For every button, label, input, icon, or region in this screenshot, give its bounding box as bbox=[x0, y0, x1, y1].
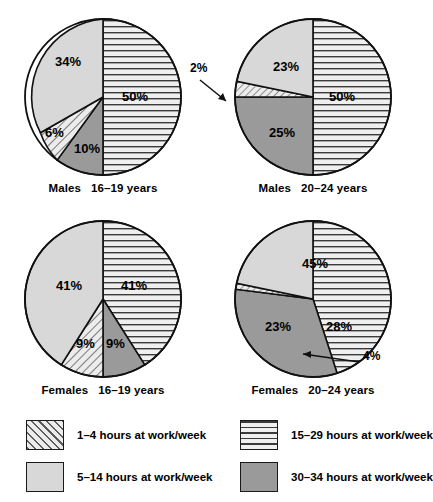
pie-panel-females-20-24: 45% 28% 23% Females20–24 years bbox=[228, 216, 398, 401]
caption-group: Females bbox=[41, 384, 88, 396]
legend-item-15-29-hours: 15–29 hours at work/week bbox=[240, 420, 433, 450]
legend-item-5-14-hours: 5–14 hours at work/week bbox=[26, 462, 213, 492]
legend-label: 5–14 hours at work/week bbox=[77, 471, 213, 483]
caption-group: Males bbox=[259, 182, 291, 194]
legend: 1–4 hours at work/week 5–14 hours at wor… bbox=[0, 412, 433, 502]
legend-swatch-horizontal-lines-icon bbox=[240, 420, 278, 450]
panel-caption-1: Males16–19 years bbox=[18, 182, 188, 194]
legend-item-1-4-hours: 1–4 hours at work/week bbox=[26, 420, 206, 450]
legend-swatch-dark-solid-icon bbox=[240, 462, 278, 492]
pie-svg-1 bbox=[18, 14, 188, 180]
callout-arrow-males-20-24 bbox=[186, 58, 246, 108]
pie-svg-2 bbox=[228, 14, 398, 180]
slice-label-15-29: 50% bbox=[329, 90, 355, 103]
caption-age: 20–24 years bbox=[308, 384, 374, 396]
caption-group: Males bbox=[49, 182, 81, 194]
slice-label-5-14: 23% bbox=[265, 320, 291, 333]
slice-label-30-34: 10% bbox=[74, 142, 100, 155]
pie-panel-males-20-24: 50% 25% 23% Males20–24 years bbox=[228, 14, 398, 199]
caption-age: 20–24 years bbox=[301, 182, 367, 194]
legend-label: 30–34 hours at work/week bbox=[291, 471, 433, 483]
pie-panel-males-16-19: 50% 10% 6% 34% Males16–19 years bbox=[18, 14, 188, 199]
pie-panel-females-16-19: 41% 9% 9% 41% Females16–19 years bbox=[18, 216, 188, 401]
slice-label-5-14: 41% bbox=[56, 279, 82, 292]
slice-label-30-34: 25% bbox=[269, 126, 295, 139]
panel-caption-3: Females16–19 years bbox=[18, 384, 188, 396]
slice-label-5-14: 34% bbox=[55, 55, 81, 68]
panel-caption-4: Females20–24 years bbox=[228, 384, 398, 396]
callout-arrow-females-20-24 bbox=[295, 340, 363, 370]
slice-label-30-34: 9% bbox=[106, 337, 125, 350]
panel-caption-2: Males20–24 years bbox=[228, 182, 398, 194]
slice-label-15-29: 41% bbox=[121, 279, 147, 292]
pie-chart-figure: 50% 10% 6% 34% Males16–19 years 50% 25% … bbox=[0, 0, 433, 502]
slice-label-15-29: 45% bbox=[302, 257, 328, 270]
caption-age: 16–19 years bbox=[91, 182, 157, 194]
slice-label-1-4: 6% bbox=[45, 126, 64, 139]
caption-group: Females bbox=[251, 384, 298, 396]
slice-label-5-14: 23% bbox=[273, 60, 299, 73]
legend-swatch-light-solid-icon bbox=[26, 462, 64, 492]
legend-item-30-34-hours: 30–34 hours at work/week bbox=[240, 462, 433, 492]
slice-label-15-29: 50% bbox=[122, 90, 148, 103]
pie-svg-3 bbox=[18, 216, 188, 382]
slice-label-30-34: 28% bbox=[326, 320, 352, 333]
legend-swatch-diagonal-hatch-icon bbox=[26, 420, 64, 450]
slice-label-1-4: 9% bbox=[76, 337, 95, 350]
legend-label: 1–4 hours at work/week bbox=[77, 429, 206, 441]
callout-label-1-4-hours-females-20-24: 4% bbox=[363, 350, 380, 362]
caption-age: 16–19 years bbox=[98, 384, 164, 396]
legend-label: 15–29 hours at work/week bbox=[291, 429, 433, 441]
